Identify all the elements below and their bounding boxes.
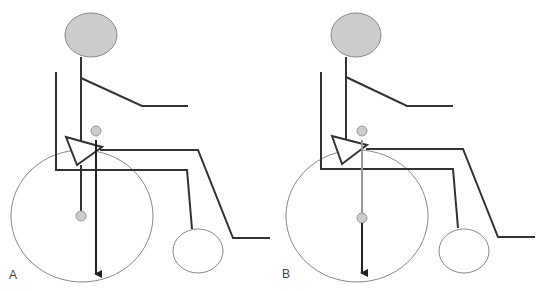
center-of-mass-dot (357, 126, 367, 136)
panel-b (286, 13, 535, 282)
wheelchair-diagram (0, 0, 541, 291)
caster-wheel (439, 229, 489, 273)
head (331, 13, 381, 57)
leg (366, 149, 535, 237)
panel-label-a: A (9, 268, 17, 282)
axle-dot (76, 211, 86, 221)
arm (81, 78, 188, 106)
panel-a (11, 13, 270, 282)
head (65, 13, 117, 57)
caster-wheel (173, 229, 223, 273)
axle-dot (357, 213, 367, 223)
panel-label-b: B (282, 267, 290, 281)
center-of-mass-dot (91, 126, 101, 136)
arm (346, 77, 453, 106)
